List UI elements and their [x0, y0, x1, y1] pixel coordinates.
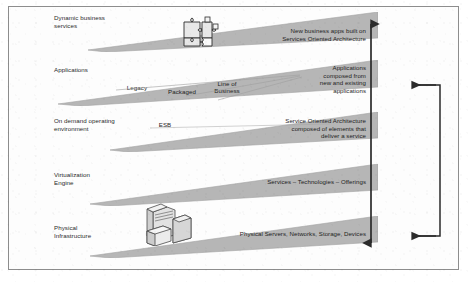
- layer-label-physical-infrastructure: Physical Infrastructure: [54, 224, 138, 241]
- layer-label-on-demand-operating-environment: On demand operating environment: [54, 117, 144, 134]
- layer-description-virtualization-engine: Services – Technologies – Offerings: [216, 178, 366, 186]
- server-stack-icon-name: server-stack-icon: [0, 0, 1, 1]
- puzzle-pieces-icon: [180, 14, 222, 50]
- layer-label-dynamic-business-services: Dynamic business services: [54, 14, 138, 31]
- tag-packaged: Packaged: [160, 88, 204, 95]
- tag-legacy: Legacy: [118, 84, 156, 91]
- layer-label-applications: Applications: [54, 66, 138, 74]
- layer-description-applications: Applications composed from new and exist…: [278, 64, 366, 94]
- layer-description-dynamic-business-services: New business apps built on Services Orie…: [230, 27, 366, 42]
- server-stack-icon: [145, 202, 193, 246]
- tag-line-of-business: Line of Business: [206, 80, 248, 95]
- layer-description-on-demand-operating-environment: Service Oriented Architecture composed o…: [232, 117, 366, 140]
- diagram-canvas: Dynamic business services Applications O…: [0, 0, 469, 282]
- layer-label-virtualization-engine: Virtualization Engine: [54, 171, 138, 188]
- puzzle-pieces-icon-name: puzzle-pieces-icon: [0, 0, 1, 1]
- tag-esb: ESB: [152, 121, 178, 128]
- layer-description-physical-infrastructure: Physical Servers, Networks, Storage, Dev…: [196, 230, 366, 238]
